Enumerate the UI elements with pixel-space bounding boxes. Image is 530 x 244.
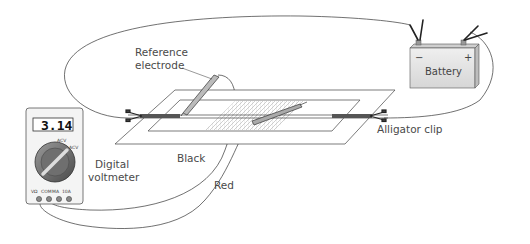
label-alligator-clip: Alligator clip <box>377 123 443 135</box>
battery-positive-clip-icon <box>464 26 487 40</box>
left-clip-contact <box>140 114 180 118</box>
label-red: Red <box>214 179 234 191</box>
digital-voltmeter: 3.14 ACV ACV VΩ COM MA 10A <box>26 108 83 204</box>
port-label-10a: 10A <box>62 189 72 194</box>
reference-electrode-leader <box>182 68 212 79</box>
right-clip-contact <box>332 114 372 118</box>
label-electrode: electrode <box>135 59 184 71</box>
label-black: Black <box>177 152 206 164</box>
label-digital: Digital <box>95 158 129 170</box>
port-v-ohm <box>36 196 41 201</box>
label-reference: Reference <box>135 46 188 58</box>
dial-label-acv-1: ACV <box>57 138 67 143</box>
port-label-v-ohm: VΩ <box>31 189 38 194</box>
port-label-ma: MA <box>52 189 60 194</box>
battery-label: Battery <box>425 66 462 77</box>
port-10a <box>66 196 71 201</box>
left-alligator-clip-icon <box>126 110 142 122</box>
port-com <box>46 196 51 201</box>
specimen-plates <box>115 90 395 144</box>
battery-negative-clip-icon <box>410 20 423 40</box>
battery-positive-label: + <box>464 52 472 63</box>
dial-label-acv-2: ACV <box>69 145 79 150</box>
voltmeter-reading: 3.14 <box>41 118 72 133</box>
port-ma <box>56 196 61 201</box>
battery-negative-label: − <box>415 52 423 63</box>
label-voltmeter: voltmeter <box>88 171 140 183</box>
battery: − + Battery <box>410 40 479 88</box>
corrosion-test-diagram: − + Battery 3.14 ACV ACV VΩ COM MA 10A R… <box>0 0 530 244</box>
port-label-com: COM <box>41 189 52 194</box>
